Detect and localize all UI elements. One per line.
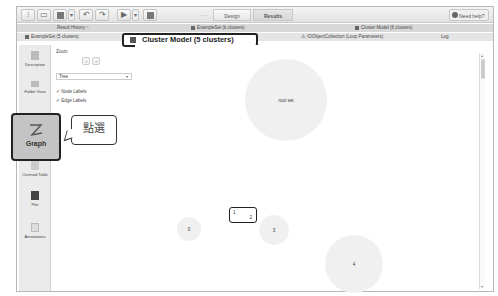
views-label: · · · xyxy=(197,9,211,21)
sidebar-item-folder-view[interactable]: Folder View xyxy=(19,81,51,94)
open-button[interactable]: ▭ xyxy=(37,9,51,21)
graph-node-4[interactable]: 4 xyxy=(325,235,383,293)
tab-log[interactable]: Log xyxy=(437,33,449,41)
new-process-button[interactable]: ⁝ xyxy=(21,9,35,21)
sidebar-item-graph[interactable]: Graph xyxy=(11,113,61,161)
results-view-button[interactable]: Results xyxy=(253,9,293,21)
warning-icon: ⚠ xyxy=(301,34,305,39)
tab-cluster-model-6[interactable]: Cluster Model (6 clusters) xyxy=(351,24,412,32)
run-button[interactable]: ▶ xyxy=(117,9,131,21)
tab-exampleset-k-clusters[interactable]: ExampleSet (k clusters) xyxy=(187,24,245,32)
highlighted-nodes-1-2[interactable]: 1 2 xyxy=(229,207,257,223)
main-toolbar: ⁝ ▭ ▾ ↶ ↷ ▶ ▾ · · · Design Results Need … xyxy=(17,7,493,23)
graph-node-root[interactable]: root set xyxy=(245,59,327,141)
help-button[interactable]: Need help? xyxy=(449,9,489,21)
scroll-up-arrow[interactable]: ▴ xyxy=(481,53,483,58)
results-tabs-row-1: Result History × ExampleSet (k clusters)… xyxy=(17,24,493,32)
edge-labels-checkbox[interactable]: ✓ Edge Labels xyxy=(56,98,86,103)
scroll-down-arrow[interactable]: ▾ xyxy=(481,284,483,289)
model-icon xyxy=(355,26,359,30)
folder-icon xyxy=(31,81,39,87)
graph-node-3[interactable]: 3 xyxy=(259,215,289,245)
tab-result-history[interactable]: Result History × xyxy=(53,24,89,32)
node-labels-checkbox[interactable]: ✓ Node Labels xyxy=(56,89,87,94)
view-sidebar: Description Folder View Centroid Table P… xyxy=(19,45,51,291)
tab-ioobjectcollection[interactable]: ⚠IOObjectCollection (Loop Parameters) xyxy=(297,33,383,41)
table-icon xyxy=(191,26,195,30)
zoom-label: Zoom xyxy=(56,49,68,54)
graph-node-2[interactable]: 2 xyxy=(249,215,252,220)
model-icon xyxy=(130,37,136,43)
stop-button[interactable] xyxy=(143,9,157,21)
graph-canvas[interactable]: root set 0 3 4 ▴ ▾ xyxy=(135,45,485,291)
redo-button[interactable]: ↷ xyxy=(95,9,109,21)
undo-button[interactable]: ↶ xyxy=(79,9,93,21)
graph-node-0[interactable]: 0 xyxy=(177,217,201,241)
annotations-icon xyxy=(31,223,39,232)
plot-icon xyxy=(31,191,39,200)
table-icon xyxy=(25,35,29,39)
sidebar-item-plot[interactable]: Plot xyxy=(19,191,51,207)
callout-annotation: 點選 xyxy=(71,115,117,145)
vertical-scrollbar[interactable]: ▴ ▾ xyxy=(479,53,485,289)
zoom-out-button[interactable]: ⌕ xyxy=(92,57,100,65)
scrollbar-thumb[interactable] xyxy=(481,59,485,79)
graph-node-1[interactable]: 1 xyxy=(233,210,236,215)
sidebar-item-description[interactable]: Description xyxy=(19,51,51,67)
sidebar-item-centroid-table[interactable]: Centroid Table xyxy=(19,161,51,177)
chevron-down-icon: ▾ xyxy=(126,74,128,79)
sidebar-item-annotations[interactable]: Annotations xyxy=(19,223,51,239)
save-button[interactable] xyxy=(53,9,67,21)
tab-exampleset-5-clusters[interactable]: ExampleSet (5 clusters) xyxy=(21,33,79,41)
design-view-button[interactable]: Design xyxy=(213,9,251,21)
app-window: ⁝ ▭ ▾ ↶ ↷ ▶ ▾ · · · Design Results Need … xyxy=(16,6,494,292)
zoom-in-button[interactable]: ⌕ xyxy=(82,57,90,65)
table-icon xyxy=(31,161,39,170)
description-icon xyxy=(31,51,39,60)
run-dropdown-button[interactable]: ▾ xyxy=(132,9,139,21)
layout-select[interactable]: Tree xyxy=(56,73,132,80)
save-dropdown-button[interactable]: ▾ xyxy=(68,9,75,21)
graph-icon xyxy=(28,123,44,137)
graph-options-panel: Zoom ⌕ ⌕ Tree ▾ ✓ Node Labels ✓ Edge Lab… xyxy=(52,45,134,103)
